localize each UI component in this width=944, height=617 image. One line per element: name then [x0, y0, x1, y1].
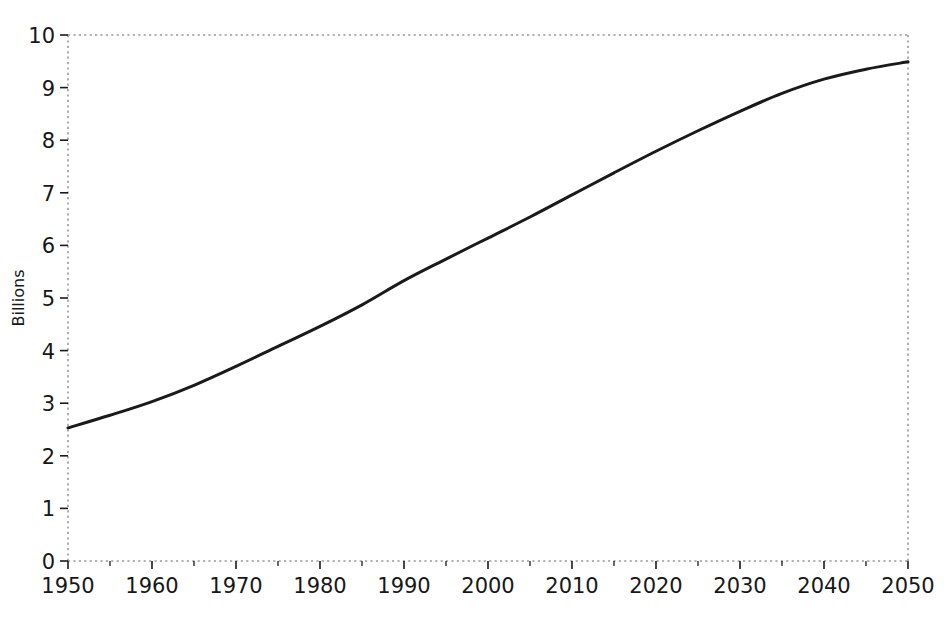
y-tick-label: 3: [42, 392, 55, 416]
y-tick-label: 9: [42, 77, 55, 101]
y-axis-title: Billions: [9, 269, 28, 326]
y-tick-label: 1: [42, 497, 55, 521]
x-tick-label: 2020: [629, 574, 682, 598]
y-tick-label: 4: [42, 340, 55, 364]
chart-background: [0, 0, 944, 617]
y-tick-label: 2: [42, 445, 55, 469]
y-tick-label: 5: [42, 287, 55, 311]
y-tick-label: 8: [42, 129, 55, 153]
x-tick-label: 2040: [797, 574, 850, 598]
y-tick-label: 10: [28, 24, 55, 48]
x-tick-label: 1960: [125, 574, 178, 598]
x-tick-label: 1990: [377, 574, 430, 598]
y-tick-label: 6: [42, 234, 55, 258]
y-tick-label: 7: [42, 182, 55, 206]
x-tick-label: 1950: [41, 574, 94, 598]
x-axis-tick-labels: 1950196019701980199020002010202020302040…: [41, 574, 934, 598]
x-tick-label: 2030: [713, 574, 766, 598]
chart-canvas: 1950196019701980199020002010202020302040…: [0, 0, 944, 617]
x-tick-label: 2000: [461, 574, 514, 598]
x-tick-label: 2010: [545, 574, 598, 598]
x-tick-label: 1970: [209, 574, 262, 598]
x-tick-label: 2050: [881, 574, 934, 598]
population-line-chart: 1950196019701980199020002010202020302040…: [0, 0, 944, 617]
y-tick-label: 0: [42, 550, 55, 574]
axis-titles: Billions: [9, 269, 28, 326]
x-tick-label: 1980: [293, 574, 346, 598]
